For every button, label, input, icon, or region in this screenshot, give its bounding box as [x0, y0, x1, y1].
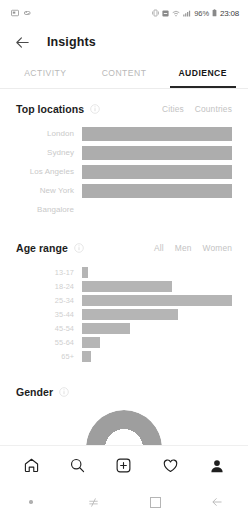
age-bar	[82, 295, 232, 306]
bar-track	[82, 351, 232, 362]
status-bar-right-icons: 96% 23:08	[152, 9, 239, 18]
gender-chart	[0, 404, 248, 444]
battery-percent-label: 96%	[194, 9, 209, 18]
chart-row: Sydney	[16, 144, 232, 161]
segment-men[interactable]: Men	[175, 243, 192, 253]
chart-row: New York	[16, 182, 232, 199]
age-bar	[82, 267, 88, 278]
bar-track	[82, 337, 232, 348]
info-icon[interactable]	[74, 243, 84, 253]
chart-row: 35-44	[16, 308, 232, 321]
screenshot-icon	[11, 9, 19, 17]
top-locations-chart: London Sydney Los Angeles New York Banga…	[0, 115, 248, 218]
nav-search-button[interactable]	[65, 453, 91, 479]
gender-filter-segmented-control: All Men Women	[154, 243, 232, 253]
bar-track	[82, 267, 232, 278]
age-bar	[82, 323, 130, 334]
nav-activity-button[interactable]	[157, 453, 183, 479]
status-bar: 96% 23:08	[0, 0, 248, 26]
tab-content[interactable]: CONTENT	[85, 58, 164, 88]
bar-track	[82, 165, 232, 179]
location-bar	[82, 165, 232, 179]
insights-tab-bar: ACTIVITY CONTENT AUDIENCE	[0, 58, 248, 89]
bar-track	[82, 127, 232, 141]
battery-icon	[212, 9, 217, 17]
recents-square-icon	[150, 497, 161, 508]
nav-add-post-button[interactable]	[111, 453, 137, 479]
age-bar	[82, 337, 100, 348]
dot-icon	[29, 500, 32, 503]
bar-track	[82, 323, 232, 334]
app-header: Insights	[0, 26, 248, 58]
segment-cities[interactable]: Cities	[162, 104, 184, 114]
search-icon	[69, 457, 86, 474]
age-bar	[82, 351, 91, 362]
age-range-chart: 13-17 18-24 25-34 35-44 45-54 55-64 65+	[0, 254, 248, 363]
age-label: 55-64	[16, 338, 82, 347]
status-bar-left-icons	[11, 9, 32, 17]
age-label: 65+	[16, 352, 82, 361]
signal-icon	[183, 10, 191, 17]
nav-home-button[interactable]	[18, 453, 44, 479]
back-arrow-icon[interactable]	[14, 34, 31, 51]
bar-track	[82, 281, 232, 292]
location-label: Bangalore	[16, 205, 82, 214]
bar-track	[82, 309, 232, 320]
location-label: London	[16, 129, 82, 138]
gender-title: Gender	[16, 386, 53, 398]
age-bar	[82, 281, 172, 292]
sysnav-recents-button[interactable]	[124, 492, 186, 512]
nav-profile-button[interactable]	[204, 453, 230, 479]
location-label: New York	[16, 186, 82, 195]
tab-audience[interactable]: AUDIENCE	[163, 58, 242, 88]
age-label: 45-54	[16, 324, 82, 333]
back-icon	[211, 496, 223, 508]
system-navigation-bar	[0, 485, 248, 524]
bar-track	[82, 295, 232, 306]
sysnav-switch-button[interactable]	[62, 492, 124, 512]
chart-row: 45-54	[16, 322, 232, 335]
vibrate-icon	[152, 9, 159, 17]
segment-all[interactable]: All	[154, 243, 164, 253]
age-bar	[82, 309, 178, 320]
locations-segmented-control: Cities Countries	[162, 104, 232, 114]
chart-row: London	[16, 125, 232, 142]
info-icon[interactable]	[59, 387, 69, 397]
not-equal-icon	[88, 497, 99, 508]
add-post-icon	[115, 457, 132, 474]
link-icon	[23, 9, 32, 17]
tab-activity[interactable]: ACTIVITY	[6, 58, 85, 88]
segment-women[interactable]: Women	[203, 243, 232, 253]
location-label: Los Angeles	[16, 167, 82, 176]
chart-row: 25-34	[16, 294, 232, 307]
chart-row: Los Angeles	[16, 163, 232, 180]
age-label: 35-44	[16, 310, 82, 319]
age-range-title: Age range	[16, 242, 68, 254]
audience-panel: Top locations Cities Countries London Sy…	[0, 89, 248, 445]
location-bar	[82, 184, 232, 198]
sysnav-back-button[interactable]	[186, 492, 248, 512]
clock-label: 23:08	[220, 9, 239, 18]
bar-track	[82, 146, 232, 160]
top-locations-header: Top locations Cities Countries	[0, 89, 248, 115]
location-bar	[82, 146, 232, 160]
bottom-navigation-bar	[0, 445, 248, 485]
age-label: 25-34	[16, 296, 82, 305]
sysnav-dot-button[interactable]	[0, 492, 62, 512]
dnd-icon	[162, 10, 169, 17]
chart-row: Bangalore	[16, 201, 232, 218]
age-label: 18-24	[16, 282, 82, 291]
bar-track	[82, 184, 232, 198]
heart-icon	[162, 457, 179, 474]
chart-row: 55-64	[16, 336, 232, 349]
bar-track	[82, 203, 232, 217]
wifi-icon	[172, 10, 180, 17]
location-label: Sydney	[16, 148, 82, 157]
location-bar	[82, 127, 232, 141]
age-range-header: Age range All Men Women	[0, 220, 248, 254]
segment-countries[interactable]: Countries	[195, 104, 232, 114]
info-icon[interactable]	[90, 104, 100, 114]
gender-header: Gender	[0, 364, 248, 398]
top-locations-title: Top locations	[16, 103, 84, 115]
chart-row: 65+	[16, 350, 232, 363]
